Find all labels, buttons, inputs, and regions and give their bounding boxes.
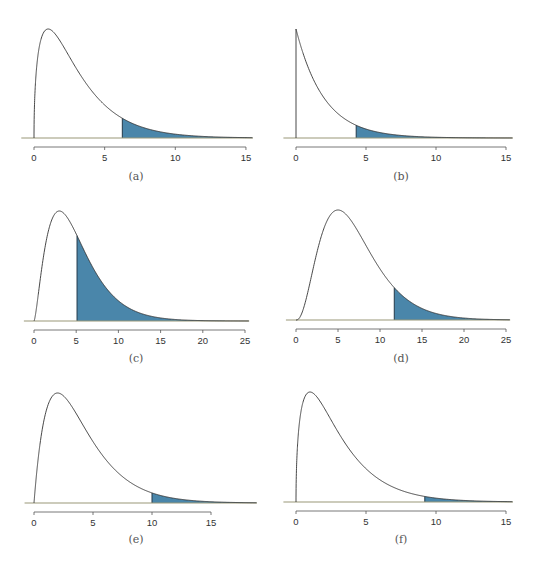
chi-square-tail-figure: 051015(a) 051015(b) 0510152025(c) 051015… xyxy=(0,0,536,565)
x-tick-label: 0 xyxy=(31,335,36,346)
x-tick-label: 15 xyxy=(501,152,512,163)
panel-c: 0510152025(c) xyxy=(24,211,250,365)
x-tick-label: 0 xyxy=(293,334,298,345)
x-tick-label: 25 xyxy=(240,335,251,346)
x-tick-label: 5 xyxy=(102,152,107,163)
panel-d: 0510152025(d) xyxy=(286,210,511,365)
x-tick-label: 25 xyxy=(501,334,512,345)
panel-label: (a) xyxy=(128,170,143,183)
shaded-tail-area xyxy=(356,125,513,138)
x-tick-label: 20 xyxy=(198,335,209,346)
x-tick-label: 0 xyxy=(31,517,36,528)
density-curve xyxy=(34,211,249,321)
x-tick-label: 15 xyxy=(241,152,252,163)
x-tick-label: 0 xyxy=(31,152,36,163)
x-tick-label: 0 xyxy=(293,516,298,527)
panel-label: (f) xyxy=(395,533,408,546)
shaded-tail-area xyxy=(394,288,510,320)
x-tick-label: 15 xyxy=(206,517,217,528)
x-tick-label: 10 xyxy=(375,334,386,345)
x-tick-label: 10 xyxy=(170,152,181,163)
x-tick-label: 15 xyxy=(417,334,428,345)
x-tick-label: 5 xyxy=(74,335,79,346)
panel-f: 051015(f) xyxy=(283,392,513,546)
x-tick-label: 5 xyxy=(363,516,368,527)
x-tick-label: 5 xyxy=(363,152,368,163)
panel-label: (c) xyxy=(129,352,144,365)
density-curve xyxy=(34,393,256,503)
density-curve xyxy=(296,29,512,138)
x-tick-label: 5 xyxy=(90,517,95,528)
density-curve xyxy=(34,29,252,138)
density-curve xyxy=(296,392,512,502)
x-tick-label: 10 xyxy=(431,152,442,163)
x-tick-label: 10 xyxy=(147,517,158,528)
panel-a: 051015(a) xyxy=(21,29,253,183)
panel-e: 051015(e) xyxy=(25,393,257,546)
x-tick-label: 20 xyxy=(459,334,470,345)
x-tick-label: 5 xyxy=(335,334,340,345)
shaded-tail-area xyxy=(77,236,249,321)
x-tick-label: 15 xyxy=(155,335,166,346)
panel-b: 051015(b) xyxy=(283,29,513,183)
panel-label: (d) xyxy=(393,352,409,365)
x-tick-label: 15 xyxy=(501,516,512,527)
x-tick-label: 10 xyxy=(113,335,124,346)
x-tick-label: 0 xyxy=(293,152,298,163)
panel-label: (e) xyxy=(128,533,143,546)
x-tick-label: 10 xyxy=(431,516,442,527)
panel-label: (b) xyxy=(393,170,409,183)
